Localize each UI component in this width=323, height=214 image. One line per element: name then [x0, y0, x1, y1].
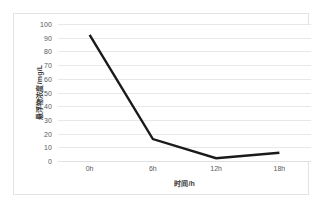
y-axis-tick-labels: 0102030405060708090100 [14, 24, 55, 161]
line-series [58, 24, 311, 161]
gridline [58, 161, 311, 162]
y-tick-label: 40 [44, 103, 52, 110]
y-tick-label: 30 [44, 116, 52, 123]
chart-frame: 悬浮物浓度/mg/L 0102030405060708090100 0h6h12… [13, 13, 309, 195]
y-tick-label: 10 [44, 144, 52, 151]
y-tick-label: 80 [44, 48, 52, 55]
x-tick-label: 0h [86, 164, 94, 173]
y-tick-label: 20 [44, 130, 52, 137]
y-tick-label: 0 [48, 158, 52, 165]
y-tick-label: 50 [44, 89, 52, 96]
y-tick-label: 60 [44, 75, 52, 82]
y-tick-label: 100 [40, 21, 52, 28]
x-tick-label: 18h [273, 164, 285, 173]
y-tick-label: 70 [44, 62, 52, 69]
y-tick-label: 90 [44, 34, 52, 41]
x-tick-label: 12h [210, 164, 222, 173]
x-tick-label: 6h [149, 164, 157, 173]
plot-area [58, 24, 311, 161]
series-polyline [90, 35, 280, 158]
x-axis-title: 时间/h [58, 178, 311, 188]
x-axis-tick-labels: 0h6h12h18h [58, 164, 311, 176]
